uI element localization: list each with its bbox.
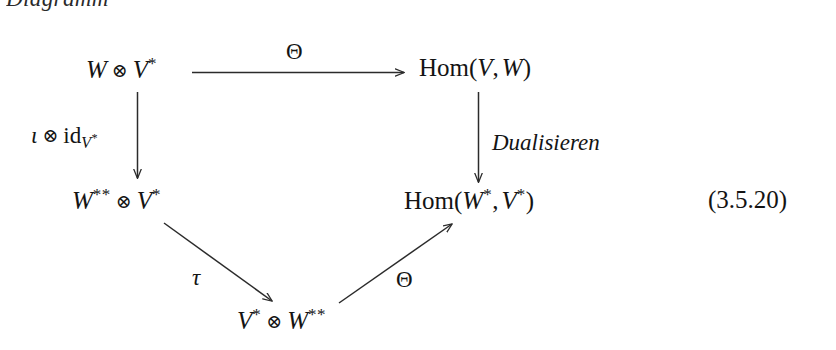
- tensor-icon: ⊗: [37, 126, 63, 145]
- id-subscript-base: V: [81, 134, 91, 151]
- id-subscript: V*: [81, 134, 97, 151]
- node-top-right-arg1: V: [477, 54, 492, 81]
- tensor-icon: ⊗: [107, 61, 133, 80]
- tensor-icon: ⊗: [261, 312, 287, 331]
- double-star-superscript: **: [93, 185, 111, 204]
- double-star-superscript: **: [308, 305, 326, 324]
- tensor-icon: ⊗: [111, 192, 137, 211]
- star-superscript: *: [483, 185, 492, 204]
- node-mid-right: Hom(W*,V*): [404, 186, 534, 213]
- arrow-label-iota-tensor-id: ι⊗idV*: [31, 124, 97, 151]
- id-symbol: id: [63, 123, 81, 148]
- arrow-label-theta-top: Θ: [286, 40, 303, 63]
- star-superscript: *: [152, 185, 161, 204]
- arrow-layer: [0, 0, 836, 350]
- comma: ,: [493, 54, 502, 81]
- node-top-right-hom: Hom: [419, 54, 469, 81]
- node-top-left-w: W: [86, 56, 107, 83]
- arrow-label-tau: τ: [192, 266, 200, 289]
- node-top-left-v: V: [133, 56, 148, 83]
- node-mid-right-hom: Hom: [404, 187, 454, 214]
- node-top-right: Hom(V,W): [419, 55, 531, 80]
- diagram-page: Diagramm W⊗V* Hom(V,W) W**⊗V* Hom(W*,V*): [0, 0, 836, 350]
- arrow-label-theta-bottom: Θ: [396, 268, 413, 291]
- node-bottom-w: W: [287, 307, 308, 334]
- node-mid-right-arg1: W: [462, 187, 483, 214]
- star-superscript: *: [148, 54, 157, 73]
- node-bottom-v: V: [237, 307, 252, 334]
- star-superscript: *: [91, 131, 98, 145]
- node-mid-left-w: W: [72, 187, 93, 214]
- paren-close: ): [526, 187, 534, 214]
- node-mid-right-arg2: V: [501, 187, 516, 214]
- node-mid-left-v: V: [137, 187, 152, 214]
- node-bottom: V*⊗W**: [237, 306, 326, 333]
- star-superscript: *: [517, 185, 526, 204]
- node-top-right-arg2: W: [502, 54, 523, 81]
- star-superscript: *: [252, 305, 261, 324]
- arrow-left-diagonal: [164, 223, 272, 301]
- paren-close: ): [523, 54, 531, 81]
- arrow-label-dualisieren: Dualisieren: [492, 131, 600, 154]
- equation-number: (3.5.20): [708, 186, 787, 214]
- node-top-left: W⊗V*: [86, 55, 157, 82]
- node-mid-left: W**⊗V*: [72, 186, 161, 213]
